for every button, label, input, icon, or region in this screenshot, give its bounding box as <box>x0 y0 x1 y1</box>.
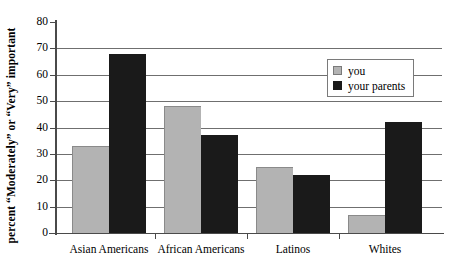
bar-your-parents-whites <box>385 122 422 233</box>
bar-your-parents-latinos <box>293 175 330 233</box>
group-tick-1 <box>247 233 248 239</box>
y-tick-label-50: 50 <box>22 95 48 107</box>
legend-swatch-you-icon <box>333 66 342 75</box>
legend-item-your-parents: your parents <box>333 78 405 93</box>
group-tick-0 <box>155 233 156 239</box>
y-axis-title: percent “Moderately” or “Very” important <box>0 0 22 271</box>
group-tick-2 <box>339 233 340 239</box>
bar-your-parents-asian-americans <box>109 54 146 233</box>
y-tick-label-80: 80 <box>22 16 48 28</box>
y-tick-label-30: 30 <box>22 148 48 160</box>
bar-you-latinos <box>256 167 293 233</box>
bars-layer <box>56 22 442 233</box>
y-tick-label-0: 0 <box>22 227 48 239</box>
legend-item-you: you <box>333 63 405 78</box>
legend-label-you: you <box>348 65 365 77</box>
y-tick-label-10: 10 <box>22 201 48 213</box>
legend: you your parents <box>327 59 414 97</box>
y-tick-label-20: 20 <box>22 174 48 186</box>
legend-label-your-parents: your parents <box>348 80 405 92</box>
bar-you-asian-americans <box>72 146 109 233</box>
y-tick-label-60: 60 <box>22 69 48 81</box>
y-tick-label-40: 40 <box>22 122 48 134</box>
bar-chart: percent “Moderately” or “Very” important… <box>0 0 450 271</box>
bar-your-parents-african-americans <box>201 135 238 233</box>
legend-swatch-your-parents-icon <box>333 81 342 90</box>
bar-you-african-americans <box>164 106 201 233</box>
bar-you-whites <box>348 215 385 233</box>
y-tick-label-70: 70 <box>22 42 48 54</box>
y-tick-mark-0 <box>50 233 56 234</box>
x-axis-label-whites: Whites <box>325 243 445 256</box>
